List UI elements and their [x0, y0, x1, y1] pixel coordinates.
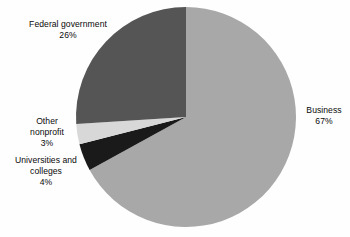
slice-label-business-name: Business — [300, 105, 348, 116]
slice-label-federal-government-value: 26% — [6, 30, 130, 41]
slice-label-federal-government-name: Federal government — [6, 19, 130, 30]
slice-label-universities-and-colleges-name-line1: Universities and — [1, 155, 91, 166]
slice-label-universities-and-colleges: Universities and colleges 4% — [1, 155, 91, 189]
slice-label-universities-and-colleges-value: 4% — [1, 177, 91, 188]
slice-label-other-nonprofit-name-line2: nonprofit — [8, 127, 86, 138]
slice-label-other-nonprofit-name-line1: Other — [8, 116, 86, 127]
slice-label-universities-and-colleges-name-line2: colleges — [1, 166, 91, 177]
slice-label-federal-government: Federal government 26% — [6, 19, 130, 41]
slice-label-other-nonprofit: Other nonprofit 3% — [8, 116, 86, 150]
slice-label-business-value: 67% — [300, 116, 348, 127]
slice-label-business: Business 67% — [300, 105, 348, 127]
pie-chart-figure: Federal government 26% Business 67% Othe… — [0, 0, 350, 237]
slice-label-other-nonprofit-value: 3% — [8, 138, 86, 149]
